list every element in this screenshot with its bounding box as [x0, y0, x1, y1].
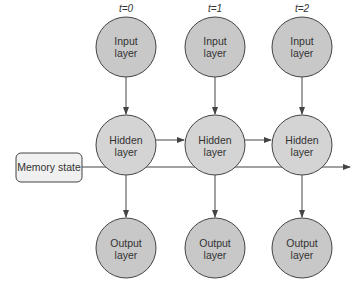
output-node-2: Output layer — [272, 218, 332, 278]
input-node-2: Input layer — [272, 17, 332, 77]
output-label-line1: Output — [199, 237, 231, 249]
input-label-line2: layer — [204, 47, 227, 59]
hidden-label-line2: layer — [204, 146, 227, 158]
output-label-line2: layer — [291, 249, 314, 261]
time-label-0: t=0 — [119, 3, 134, 14]
input-label-line2: layer — [115, 47, 138, 59]
output-label-line1: Output — [110, 237, 142, 249]
hidden-node-1: Hidden layer — [185, 115, 245, 175]
memory-state-box: Memory state — [16, 153, 82, 182]
hidden-label-line1: Hidden — [109, 134, 142, 146]
hidden-label-line1: Hidden — [285, 134, 318, 146]
hidden-label-line2: layer — [115, 146, 138, 158]
input-node-1: Input layer — [185, 17, 245, 77]
memory-state-label: Memory state — [17, 161, 81, 173]
input-label-line1: Input — [203, 35, 226, 47]
input-label-line2: layer — [291, 47, 314, 59]
output-node-1: Output layer — [185, 218, 245, 278]
hidden-label-line1: Hidden — [198, 134, 231, 146]
time-label-1: t=1 — [208, 3, 222, 14]
hidden-node-0: Hidden layer — [96, 115, 156, 175]
input-label-line1: Input — [290, 35, 313, 47]
input-node-0: Input layer — [96, 17, 156, 77]
hidden-label-line2: layer — [291, 146, 314, 158]
hidden-node-2: Hidden layer — [272, 115, 332, 175]
input-label-line1: Input — [114, 35, 137, 47]
time-label-2: t=2 — [295, 3, 310, 14]
output-label-line1: Output — [286, 237, 318, 249]
output-label-line2: layer — [115, 249, 138, 261]
output-node-0: Output layer — [96, 218, 156, 278]
rnn-diagram: Memory state t=0 t=1 t=2 Input layer Inp… — [0, 0, 362, 284]
output-label-line2: layer — [204, 249, 227, 261]
